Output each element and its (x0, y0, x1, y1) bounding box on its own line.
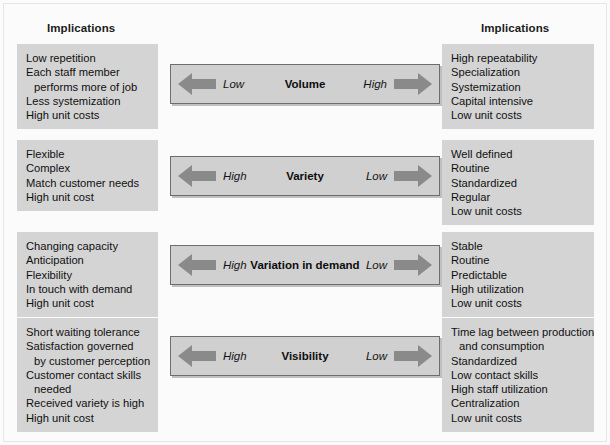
left-column-heading: Implications (47, 22, 115, 34)
dimension-bar: HighVisibilityLow (170, 336, 440, 376)
implication-line: needed (26, 382, 150, 396)
implication-line: Less systemization (26, 94, 150, 108)
implication-line: Low unit costs (451, 108, 586, 122)
dimension-bar: HighVariation in demandLow (170, 245, 440, 285)
implication-line: Capital intensive (451, 94, 586, 108)
implication-line: and consumption (451, 339, 586, 353)
implication-line: Stable (451, 239, 586, 253)
implication-line: Match customer needs (26, 176, 150, 190)
implication-line: Standardized (451, 354, 586, 368)
implication-line: Low unit costs (451, 204, 586, 218)
implication-line: Short waiting tolerance (26, 325, 150, 339)
implication-line: Routine (451, 253, 586, 267)
implication-line: High staff utilization (451, 382, 586, 396)
implication-line: In touch with demand (26, 282, 150, 296)
left-implications-box: Short waiting toleranceSatisfaction gove… (17, 318, 158, 432)
right-implications-box: Time lag between productionand consumpti… (442, 318, 594, 432)
dimension-bar-inner: HighVisibilityLow (171, 337, 439, 375)
implication-line: Received variety is high (26, 396, 150, 410)
right-implications-box: High repeatabilitySpecializationSystemiz… (442, 44, 594, 129)
implication-line: Specialization (451, 65, 586, 79)
implication-line: Standardized (451, 176, 586, 190)
right-pole-label: Low (366, 259, 387, 271)
implication-line: High unit cost (26, 190, 150, 204)
implication-line: Routine (451, 161, 586, 175)
implication-line: Well defined (451, 147, 586, 161)
implication-line: Regular (451, 190, 586, 204)
implication-line: High utilization (451, 282, 586, 296)
implication-line: Low repetition (26, 51, 150, 65)
implication-line: Complex (26, 161, 150, 175)
dimension-bar: HighVarietyLow (170, 156, 440, 196)
implication-line: by customer perception (26, 354, 150, 368)
implication-line: Centralization (451, 396, 586, 410)
implication-line: Low unit costs (451, 296, 586, 310)
arrow-right-icon (393, 71, 433, 97)
implication-line: Flexible (26, 147, 150, 161)
arrow-right-icon (393, 163, 433, 189)
right-pole-label: Low (366, 350, 387, 362)
implication-line: Low contact skills (451, 368, 586, 382)
implication-line: Predictable (451, 268, 586, 282)
implication-line: High unit cost (26, 296, 150, 310)
left-implications-box: Changing capacityAnticipationFlexibility… (17, 232, 158, 317)
implication-line: High repeatability (451, 51, 586, 65)
implication-line: Anticipation (26, 253, 150, 267)
right-implications-box: StableRoutinePredictableHigh utilization… (442, 232, 594, 317)
dimension-bar-inner: HighVariation in demandLow (171, 246, 439, 284)
left-implications-box: FlexibleComplexMatch customer needsHigh … (17, 140, 158, 211)
arrow-right-icon (393, 252, 433, 278)
right-implications-box: Well definedRoutineStandardizedRegularLo… (442, 140, 594, 225)
implication-line: Low unit costs (451, 411, 586, 425)
right-column-heading: Implications (481, 22, 549, 34)
implication-line: High unit costs (26, 108, 150, 122)
left-implications-box: Low repetitionEach staff memberperforms … (17, 44, 158, 129)
implication-line: Flexibility (26, 268, 150, 282)
implication-line: Time lag between production (451, 325, 586, 339)
implication-line: Customer contact skills (26, 368, 150, 382)
implication-line: Systemization (451, 80, 586, 94)
dimension-bar-inner: HighVarietyLow (171, 157, 439, 195)
implication-line: High unit cost (26, 411, 150, 425)
implication-line: performs more of job (26, 80, 150, 94)
right-pole-label: High (363, 78, 387, 90)
process-dimensions-figure: Implications Implications Low repetition… (0, 0, 610, 445)
implication-line: Changing capacity (26, 239, 150, 253)
dimension-bar: LowVolumeHigh (170, 64, 440, 104)
dimension-bar-inner: LowVolumeHigh (171, 65, 439, 103)
arrow-right-icon (393, 343, 433, 369)
right-pole-label: Low (366, 170, 387, 182)
implication-line: Each staff member (26, 65, 150, 79)
implication-line: Satisfaction governed (26, 339, 150, 353)
